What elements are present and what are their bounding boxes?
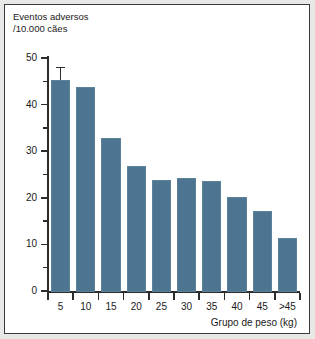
y-tick-label-50: 50 [7, 53, 37, 63]
figure-container: Eventos adversos /10.000 cães 0102030405… [0, 0, 315, 339]
x-tick [198, 293, 200, 300]
bar-slot [250, 56, 275, 292]
bar-slot [199, 56, 224, 292]
bar-slot [174, 56, 199, 292]
x-tick [123, 293, 125, 300]
x-tick-label->45: >45 [272, 301, 302, 312]
y-tick-label-0: 0 [7, 286, 37, 296]
bar-5[interactable] [51, 80, 70, 292]
y-minor-tick-15 [43, 220, 47, 222]
chart-frame: Eventos adversos /10.000 cães 0102030405… [4, 4, 310, 334]
bar-30[interactable] [177, 178, 196, 292]
y-tick-0 [41, 290, 47, 292]
bar-45[interactable] [253, 211, 272, 292]
y-tick-40 [41, 104, 47, 106]
y-minor-tick-25 [43, 174, 47, 176]
x-tick [173, 293, 175, 300]
bar-slot [124, 56, 149, 292]
y-minor-tick-35 [43, 127, 47, 129]
bar-35[interactable] [202, 181, 221, 292]
x-tick [249, 293, 251, 300]
y-minor-tick-45 [43, 81, 47, 83]
y-tick-50 [41, 57, 47, 59]
x-tick [299, 293, 301, 300]
bars-group [48, 56, 300, 292]
bar-40[interactable] [227, 197, 246, 292]
error-bar-cap-5 [56, 67, 65, 68]
plot-area: 01020304050 51015202530354045>45 [5, 5, 309, 333]
y-tick-10 [41, 244, 47, 246]
bar-slot [149, 56, 174, 292]
bar-slot [48, 56, 73, 292]
bar-15[interactable] [101, 138, 120, 292]
bar-25[interactable] [152, 180, 171, 292]
x-tick [98, 293, 100, 300]
x-tick [274, 293, 276, 300]
bar-slot [98, 56, 123, 292]
bar-10[interactable] [76, 87, 95, 292]
x-axis-title: Grupo de peso (kg) [211, 317, 297, 328]
x-tick [72, 293, 74, 300]
bar-20[interactable] [127, 166, 146, 292]
y-minor-tick-5 [43, 267, 47, 269]
x-tick [47, 293, 49, 300]
y-tick-label-40: 40 [7, 100, 37, 110]
y-tick-20 [41, 197, 47, 199]
bar-slot [275, 56, 300, 292]
x-tick [148, 293, 150, 300]
bar-slot [73, 56, 98, 292]
y-tick-label-30: 30 [7, 146, 37, 156]
bar->45[interactable] [278, 238, 297, 292]
error-bar-5 [60, 68, 61, 80]
y-tick-30 [41, 150, 47, 152]
x-tick [224, 293, 226, 300]
y-tick-label-10: 10 [7, 239, 37, 249]
bar-slot [224, 56, 249, 292]
y-tick-label-20: 20 [7, 193, 37, 203]
